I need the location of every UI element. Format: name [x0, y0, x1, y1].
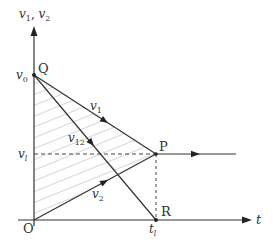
point-p-label: P [159, 139, 168, 154]
y-axis-label: v1, v2 [19, 7, 50, 23]
v0-tick-label: v0 [16, 68, 28, 84]
origin-label: O [23, 221, 34, 236]
velocity-time-diagram: v1, v2 v0 Q v1 v12 vl P v2 R O tl t [0, 0, 273, 244]
x-axis-arrow-icon [242, 217, 252, 224]
point-p-dot [154, 152, 158, 156]
y-axis-arrow-icon [31, 26, 38, 36]
v2-label: v2 [92, 187, 104, 203]
point-q-dot [32, 73, 36, 77]
tl-tick-label: tl [149, 222, 157, 238]
x-axis [18, 217, 252, 224]
vl-tick-label: vl [18, 147, 28, 163]
point-r-dot [154, 218, 158, 222]
p-continuation-line [156, 151, 236, 157]
x-axis-label: t [256, 212, 262, 227]
point-q-label: Q [38, 61, 49, 76]
hatched-region [0, 0, 273, 244]
p-continuation-arrow-icon [191, 151, 200, 157]
point-r-label: R [161, 204, 172, 219]
v1-label: v1 [90, 99, 102, 115]
